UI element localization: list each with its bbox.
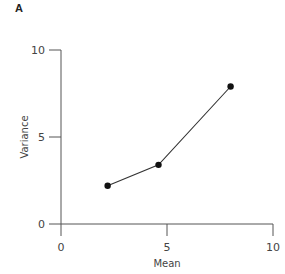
x-tick-label-5: 5 (164, 241, 171, 254)
x-axis-title: Mean (153, 258, 180, 269)
y-tick-label-10: 10 (31, 44, 45, 57)
y-axis-title: Variance (19, 115, 30, 158)
x-tick-label-0: 0 (58, 241, 65, 254)
series-line (108, 87, 231, 186)
x-tick-label-10: 10 (266, 241, 280, 254)
y-tick-label-0: 0 (38, 218, 45, 231)
data-point (155, 162, 161, 168)
data-series (104, 83, 233, 189)
y-tick-label-5: 5 (38, 131, 45, 144)
chart-area: 10 5 0 0 5 10 Mean Variance (0, 0, 285, 274)
data-point (104, 183, 110, 189)
data-point (227, 83, 233, 89)
